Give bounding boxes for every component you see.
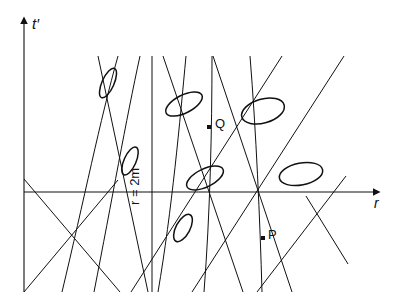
curve-4 bbox=[204, 56, 212, 292]
point-q-label: Q bbox=[215, 117, 225, 130]
outgoing-null-curves bbox=[62, 56, 262, 292]
spacetime-diagram-figure: t′ r r = 2m Q P bbox=[0, 0, 400, 301]
ingoing-null-lines bbox=[24, 56, 348, 292]
point-Q-dot bbox=[207, 125, 211, 129]
cone-4 bbox=[162, 87, 206, 121]
diagram-canvas bbox=[0, 0, 400, 301]
cone-5 bbox=[183, 161, 227, 195]
point-p-label: P bbox=[268, 228, 277, 241]
curve-3 bbox=[158, 56, 186, 292]
r-axis-label: r bbox=[374, 196, 379, 210]
cone-7 bbox=[277, 159, 324, 189]
curve-5 bbox=[250, 56, 262, 292]
cone-1 bbox=[96, 66, 120, 100]
null-2 bbox=[24, 180, 118, 292]
cone-3 bbox=[170, 211, 196, 244]
null-5 bbox=[163, 56, 243, 292]
point-P-dot bbox=[261, 236, 265, 240]
axes-group bbox=[24, 18, 379, 292]
cone-6 bbox=[239, 93, 288, 128]
horizon-label: r = 2m bbox=[128, 168, 141, 205]
null-9 bbox=[306, 196, 348, 264]
t-axis-label: t′ bbox=[32, 16, 39, 31]
